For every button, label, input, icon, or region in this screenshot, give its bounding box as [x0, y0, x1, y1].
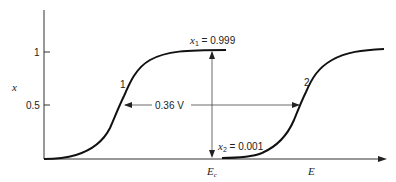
ec-arrowhead-top: [209, 51, 215, 59]
ec-label: Ec: [206, 165, 218, 179]
x1-value: = 0.999: [199, 35, 236, 46]
curve-1: [44, 50, 226, 159]
x-axis-label: E: [307, 165, 315, 177]
ec-subscript: c: [214, 171, 218, 179]
x-axis-arrowhead: [378, 156, 387, 162]
curve-2-label: 2: [304, 77, 310, 88]
sigmoid-diagram: 1 0.5 x 1 2 0.36 V x1 = 0.999 x2 = 0.001…: [0, 0, 396, 182]
y-axis-label: x: [11, 81, 17, 93]
y-tick-label-1: 1: [34, 47, 40, 58]
curve-1-label: 1: [120, 79, 126, 90]
separation-arrowhead-left: [124, 102, 132, 108]
x2-value: = 0.001: [227, 141, 264, 152]
separation-label: 0.36 V: [155, 100, 184, 111]
x2-annotation: x2 = 0.001: [217, 140, 264, 153]
y-tick-label-0.5: 0.5: [26, 100, 40, 111]
x1-annotation: x1 = 0.999: [189, 34, 236, 47]
ec-arrowhead-bottom: [209, 150, 215, 158]
